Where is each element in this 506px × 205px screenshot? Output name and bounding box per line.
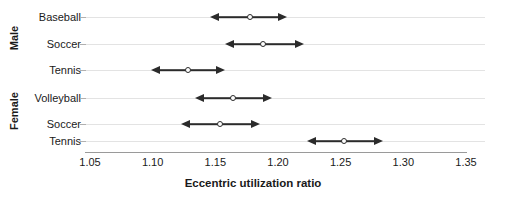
data-point-marker	[341, 138, 347, 144]
chart-figure: Male Female BaseballSoccerTennisVolleyba…	[0, 0, 506, 205]
x-tick-label: 1.05	[79, 156, 100, 168]
category-label: Baseball	[39, 11, 85, 23]
x-tick-label: 1.20	[267, 156, 288, 168]
category-tick	[80, 98, 86, 99]
arrow-right-icon	[278, 13, 287, 21]
interval-series-point	[151, 63, 225, 77]
interval-series-point	[195, 91, 271, 105]
plot-area	[85, 0, 485, 150]
interval-series-point	[307, 134, 383, 148]
data-point-marker	[260, 41, 266, 47]
arrow-right-icon	[374, 137, 383, 145]
interval-series-point	[210, 10, 286, 24]
interval-series-point	[181, 117, 260, 131]
x-tick-label: 1.35	[455, 156, 476, 168]
x-tick-label: 1.15	[205, 156, 226, 168]
category-tick	[80, 44, 86, 45]
arrow-left-icon	[195, 94, 204, 102]
arrow-right-icon	[251, 120, 260, 128]
arrow-left-icon	[151, 66, 160, 74]
arrow-right-icon	[216, 66, 225, 74]
x-tick-label: 1.25	[330, 156, 351, 168]
arrow-left-icon	[307, 137, 316, 145]
interval-series-point	[225, 37, 304, 51]
arrow-right-icon	[263, 94, 272, 102]
data-point-marker	[185, 67, 191, 73]
x-axis-line	[85, 152, 467, 153]
grid-row	[85, 141, 485, 142]
arrow-right-icon	[295, 40, 304, 48]
grid-row	[85, 70, 485, 71]
category-label: Volleyball	[35, 92, 85, 104]
data-point-marker	[247, 14, 253, 20]
arrow-left-icon	[210, 13, 219, 21]
data-point-marker	[230, 95, 236, 101]
category-tick	[80, 70, 86, 71]
category-tick	[80, 17, 86, 18]
category-axis: BaseballSoccerTennisVolleyballSoccerTenn…	[0, 0, 85, 205]
grid-row	[85, 124, 485, 125]
x-axis-title: Eccentric utilization ratio	[0, 177, 506, 189]
x-tick-label: 1.10	[142, 156, 163, 168]
grid-row	[85, 98, 485, 99]
data-point-marker	[217, 121, 223, 127]
arrow-left-icon	[181, 120, 190, 128]
x-tick-label: 1.30	[393, 156, 414, 168]
arrow-left-icon	[225, 40, 234, 48]
category-tick	[80, 141, 86, 142]
category-tick	[80, 124, 86, 125]
